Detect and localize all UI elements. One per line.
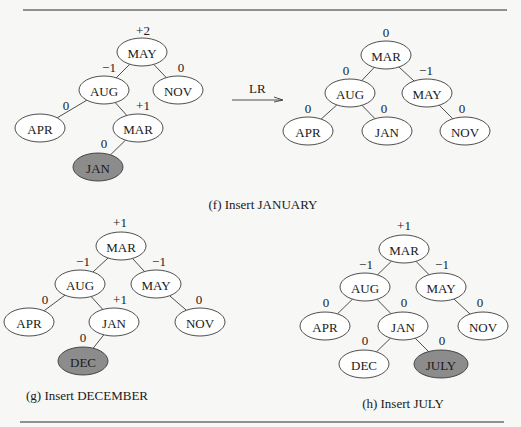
edge-aug-apr — [321, 105, 337, 119]
tree-node-jan: JAN+1 — [89, 292, 139, 337]
edge-aug-mar — [115, 103, 127, 116]
edge-jan-dec — [93, 335, 104, 348]
node-label: MAY — [127, 46, 157, 61]
edge-aug-jan — [377, 299, 391, 313]
node-label: APR — [27, 122, 53, 137]
tree-f-before-rotation: MAY+2AUG−1NOV0APR0MAR+1JAN0 — [15, 23, 203, 182]
tree-node-mar: MAR0 — [361, 25, 411, 70]
balance-factor: 0 — [42, 292, 49, 307]
node-label: MAY — [412, 87, 442, 102]
node-label: AUG — [66, 278, 94, 293]
node-label: DEC — [70, 355, 96, 370]
balance-factor: −1 — [102, 60, 116, 75]
balance-factor: 0 — [305, 101, 312, 116]
balance-factor: 0 — [401, 295, 408, 310]
edge-mar-may — [399, 67, 414, 81]
balance-factor: −1 — [435, 257, 449, 272]
tree-node-nov: NOV0 — [440, 101, 490, 146]
balance-factor: 0 — [343, 63, 350, 78]
avl-tree-figure: LR MAY+2AUG−1NOV0APR0MAR+1JAN0 MAR0AUG0M… — [0, 0, 521, 427]
edge-aug-jan — [362, 105, 375, 118]
caption-h: (h) Insert JULY — [362, 396, 444, 411]
node-label: JULY — [426, 358, 457, 373]
edge-mar-aug — [377, 261, 391, 275]
edge-may-aug — [116, 64, 130, 78]
tree-node-apr: APR0 — [4, 292, 54, 337]
tree-node-nov: NOV0 — [175, 292, 225, 337]
tree-node-nov: NOV0 — [458, 295, 508, 341]
tree-node-apr: APR0 — [283, 101, 333, 146]
balance-factor: 0 — [80, 330, 87, 345]
caption-f: (f) Insert JANUARY — [208, 197, 318, 212]
balance-factor: 0 — [439, 333, 446, 348]
balance-factor: −1 — [419, 63, 433, 78]
tree-node-mar: MAR+1 — [379, 218, 429, 264]
node-label: MAR — [106, 240, 136, 255]
edge-mar-jan — [110, 140, 125, 155]
node-label: AUG — [90, 84, 118, 99]
edge-may-nov — [439, 105, 453, 119]
tree-node-may: MAY+2 — [117, 23, 167, 67]
edge-may-nov — [154, 64, 167, 77]
tree-node-may: MAY−1 — [131, 254, 181, 299]
tree-node-july: JULY0 — [414, 333, 468, 379]
node-label: JAN — [375, 125, 399, 140]
balance-factor: +2 — [136, 23, 150, 38]
node-label: APR — [312, 320, 338, 335]
edge-mar-may — [416, 261, 429, 274]
arrow-head-icon — [274, 97, 283, 102]
node-label: AUG — [351, 281, 379, 296]
tree-node-may: MAY−1 — [416, 257, 466, 302]
balance-factor: +1 — [113, 215, 127, 230]
balance-factor: +1 — [113, 292, 127, 307]
balance-factor: 0 — [459, 101, 466, 116]
tree-node-apr: APR0 — [300, 295, 350, 341]
balance-factor: 0 — [323, 295, 330, 310]
tree-f-after-rotation: MAR0AUG0MAY−1APR0JAN0NOV0 — [283, 25, 490, 146]
balance-factor: −1 — [76, 254, 90, 269]
balance-factor: +1 — [397, 218, 411, 233]
tree-node-jan: JAN0 — [362, 101, 412, 146]
tree-h-insert-july: MAR+1AUG−1MAY−1APR0JAN0NOV0DEC0JULY0 — [300, 218, 508, 379]
balance-factor: 0 — [178, 60, 185, 75]
edge-mar-aug — [93, 258, 108, 272]
edge-aug-jan — [91, 297, 103, 310]
edge-aug-apr — [57, 100, 87, 118]
tree-node-aug: AUG−1 — [55, 254, 105, 299]
balance-factor: 0 — [63, 98, 70, 113]
node-label: MAY — [141, 278, 171, 293]
edge-may-nov — [170, 296, 187, 311]
node-label: DEC — [351, 358, 377, 373]
node-label: APR — [295, 125, 321, 140]
balance-factor: −1 — [152, 254, 166, 269]
node-label: APR — [16, 316, 42, 331]
balance-factor: 0 — [362, 333, 369, 348]
edge-aug-apr — [337, 299, 352, 314]
tree-node-aug: AUG−1 — [79, 60, 129, 105]
node-label: AUG — [336, 87, 364, 102]
node-label: JAN — [391, 320, 415, 335]
balance-factor: +1 — [136, 98, 150, 113]
tree-node-mar: MAR+1 — [113, 98, 163, 143]
tree-node-mar: MAR+1 — [96, 215, 146, 261]
node-label: JAN — [102, 316, 126, 331]
tree-node-aug: AUG0 — [325, 63, 375, 108]
node-label: JAN — [86, 161, 110, 176]
tree-node-apr: APR0 — [15, 98, 69, 143]
tree-node-jan: JAN0 — [73, 136, 123, 182]
edge-may-nov — [454, 299, 470, 314]
balance-factor: 0 — [101, 136, 108, 151]
node-label: MAR — [371, 49, 401, 64]
lr-rotation-arrow: LR — [232, 81, 283, 102]
edge-jan-dec — [376, 338, 390, 352]
caption-g: (g) Insert DECEMBER — [26, 388, 148, 403]
edge-mar-aug — [362, 67, 375, 80]
edge-jan-july — [415, 338, 429, 352]
balance-factor: 0 — [196, 292, 203, 307]
tree-node-aug: AUG−1 — [340, 257, 390, 302]
node-label: MAR — [389, 243, 419, 258]
tree-node-nov: NOV0 — [153, 60, 203, 105]
tree-node-may: MAY−1 — [402, 63, 452, 108]
edge-mar-may — [132, 258, 144, 271]
tree-g-insert-december: MAR+1AUG−1MAY−1APR0JAN+1NOV0DEC0 — [4, 215, 225, 376]
